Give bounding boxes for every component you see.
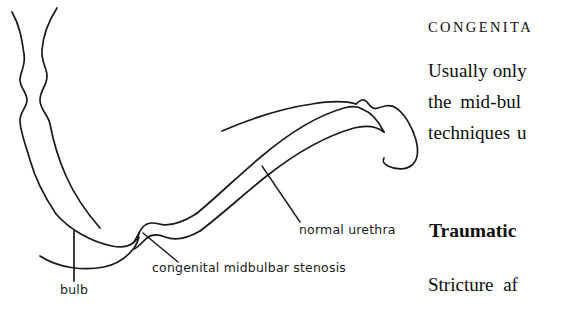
penile-urethra-right-wall: [40, 8, 100, 228]
bulb-floor-wall: [40, 237, 139, 269]
body-text-line-1: Usually only: [428, 60, 527, 82]
penile-urethra-left-wall: [12, 12, 56, 214]
bulbar-urethra-top-wall: [56, 214, 139, 247]
midbulbar-stenosis-upper-notch: [133, 214, 196, 243]
body-text-line-3: techniques u: [428, 122, 527, 144]
leader-line-normal-urethra: [262, 166, 300, 222]
proximal-urethra-lower-wall: [200, 126, 384, 231]
section-heading-congenital: CONGENITA: [428, 19, 533, 36]
body-text-line-2: the mid-bul: [428, 91, 521, 113]
leader-line-congenital-stenosis: [143, 233, 178, 262]
proximal-urethra-upper-wall: [196, 107, 362, 214]
proximal-urethra-closure: [362, 109, 384, 132]
scanned-document-page: normal urethra congenital midbulbar sten…: [0, 0, 570, 311]
section-heading-traumatic: Traumatic: [429, 220, 516, 242]
body-text-column: CONGENITA Usually only the mid-bul techn…: [428, 0, 570, 311]
urethra-outer-contour: [222, 102, 356, 131]
body-text-line-traumatic: Stricture af: [428, 274, 518, 296]
figure-label-congenital-midbulbar-stenosis: congenital midbulbar stenosis: [152, 262, 346, 275]
figure-label-bulb: bulb: [60, 284, 88, 297]
figure-label-normal-urethra: normal urethra: [299, 224, 396, 237]
